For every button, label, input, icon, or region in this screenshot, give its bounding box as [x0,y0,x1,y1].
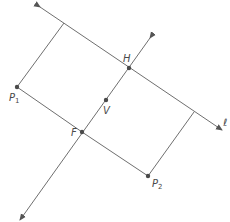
point-v [104,98,108,102]
label-p1: P1 [9,92,20,105]
segment-p1-top [17,23,64,87]
point-h [127,66,131,70]
label-line-l: ℓ [223,117,227,128]
segment-p2-right [148,112,194,176]
point-f [80,130,84,134]
geometry-diagram: P1 P2 H V F ℓ [0,0,230,222]
segment-f-p2 [82,132,148,176]
label-v: V [103,105,111,116]
label-f: F [71,127,77,138]
perpendicular-line [20,38,150,220]
point-p1 [15,85,19,89]
segment-p1-f [17,87,82,132]
point-p2 [146,174,150,178]
label-p2: P2 [152,178,163,191]
label-h: H [123,53,131,64]
